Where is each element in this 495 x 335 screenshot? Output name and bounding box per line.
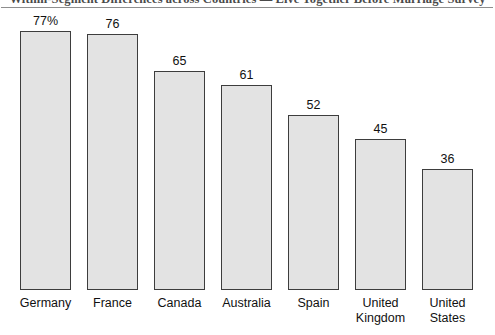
bar-chart-plot-area: 77%Germany76France65Canada61Australia52S… xyxy=(0,10,495,335)
bar-group: 77%Germany xyxy=(20,10,71,335)
bar-value-label: 52 xyxy=(282,98,345,112)
bar-group: 36United States xyxy=(422,10,473,335)
bar-category-label: United States xyxy=(408,296,487,326)
bar-value-label: 36 xyxy=(416,152,479,166)
bar-group: 65Canada xyxy=(154,10,205,335)
bar-group: 76France xyxy=(87,10,138,335)
bar-value-label: 45 xyxy=(349,122,412,136)
bar-value-label: 76 xyxy=(81,17,144,31)
bar-value-label: 61 xyxy=(215,68,278,82)
bar-value-label: 77% xyxy=(14,14,77,28)
chart-screenshot: Within-Segment Differences across Countr… xyxy=(0,0,495,335)
bar-rect xyxy=(288,115,339,290)
bar-value-label: 65 xyxy=(148,54,211,68)
bar-rect xyxy=(20,31,71,290)
bar-rect xyxy=(154,71,205,290)
bar-group: 45United Kingdom xyxy=(355,10,406,335)
bar-rect xyxy=(355,139,406,290)
bar-rect xyxy=(422,169,473,290)
bar-group: 52Spain xyxy=(288,10,339,335)
page-title: Within-Segment Differences across Countr… xyxy=(0,0,495,6)
bar-rect xyxy=(221,85,272,290)
bar-rect xyxy=(87,34,138,290)
bar-group: 61Australia xyxy=(221,10,272,335)
header-divider xyxy=(1,7,493,8)
